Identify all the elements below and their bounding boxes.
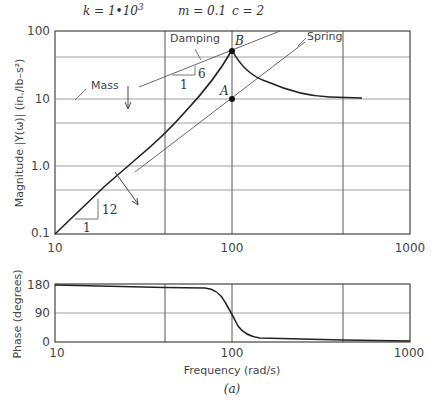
phase-x-tick-100: 100 bbox=[221, 346, 244, 360]
param-c: c = 2 bbox=[232, 4, 264, 18]
magnitude-axis-label: Magnitude |Y(ω)| (in./lb–s²) bbox=[13, 59, 26, 208]
point-a bbox=[229, 96, 235, 102]
spring-label: Spring bbox=[307, 30, 343, 43]
slope-12-run-label: 1 bbox=[83, 221, 91, 235]
asymptotes bbox=[135, 31, 305, 172]
x-tick-1000: 1000 bbox=[395, 241, 426, 255]
slope-6-run-label: 1 bbox=[180, 78, 188, 92]
phase-x-tick-1000: 1000 bbox=[394, 346, 425, 360]
param-m: m = 0.1 bbox=[178, 4, 226, 18]
arrow-down-icon bbox=[125, 86, 131, 109]
y-tick-10: 10 bbox=[35, 92, 50, 106]
arrow-diagonal-icon bbox=[115, 172, 138, 205]
damping-label: Damping bbox=[170, 32, 220, 45]
figure-caption: (a) bbox=[224, 382, 241, 396]
x-tick-100: 100 bbox=[221, 241, 244, 255]
mass-label: Mass bbox=[91, 79, 119, 92]
slope-triangle-damping bbox=[172, 66, 195, 75]
slope-12-label: 12 bbox=[102, 203, 117, 217]
x-axis-label: Frequency (rad/s) bbox=[184, 364, 281, 377]
label-a: A bbox=[219, 84, 229, 98]
phase-tick-180: 180 bbox=[27, 278, 50, 292]
bode-plot: k = 1•103 m = 0.1 c = 2 100 10 1.0 0.1 1… bbox=[0, 0, 438, 402]
y-tick-100: 100 bbox=[27, 24, 50, 38]
slope-6-label: 6 bbox=[198, 67, 206, 81]
slope-triangle-mass bbox=[75, 199, 98, 219]
phase-tick-90: 90 bbox=[35, 306, 50, 320]
y-tick-1: 1.0 bbox=[31, 159, 50, 173]
phase-plot bbox=[55, 284, 410, 342]
phase-axis-label: Phase (degrees) bbox=[11, 269, 24, 358]
phase-x-tick-10: 10 bbox=[49, 346, 64, 360]
label-b: B bbox=[234, 34, 244, 48]
point-b bbox=[229, 48, 235, 54]
y-tick-0-1: 0.1 bbox=[31, 226, 50, 240]
x-tick-10: 10 bbox=[47, 241, 62, 255]
param-k: k = 1•103 bbox=[83, 2, 144, 18]
